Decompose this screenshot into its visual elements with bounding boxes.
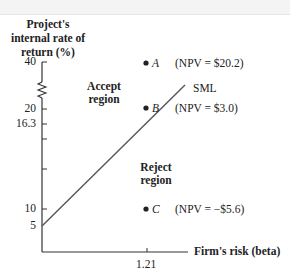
y-tick-label-40: 40: [6, 55, 36, 67]
y-tick-label-10: 10: [6, 202, 36, 214]
x-axis-title: Firm's risk (beta): [194, 245, 280, 258]
y-tick-label-5: 5: [6, 219, 36, 231]
sml-label: SML: [193, 82, 217, 95]
point-b-marker: [143, 105, 148, 110]
y-tick-label-20: 20: [6, 102, 36, 114]
point-a-npv: (NPV = $20.2): [175, 57, 244, 70]
x-tick-label-1-21: 1.21: [136, 258, 156, 271]
reject-region-label: Reject region: [136, 161, 176, 187]
point-c-marker: [143, 206, 148, 211]
point-b-label: B: [152, 102, 159, 115]
reject-region-line1: Reject: [136, 161, 176, 174]
accept-region-label: Accept region: [82, 80, 126, 106]
chart-canvas: [0, 0, 290, 279]
axis-break-icon: [38, 82, 46, 98]
point-a-label: A: [152, 57, 159, 70]
point-c-label: C: [152, 203, 160, 216]
accept-region-line1: Accept: [82, 80, 126, 93]
sml-line: [42, 85, 185, 226]
accept-region-line2: region: [82, 93, 126, 106]
reject-region-line2: region: [136, 174, 176, 187]
y-tick-label-16-3: 16.3: [6, 117, 36, 129]
point-b-npv: (NPV = $3.0): [175, 102, 238, 115]
point-c-npv: (NPV = −$5.6): [175, 203, 244, 216]
point-a-marker: [143, 60, 148, 65]
